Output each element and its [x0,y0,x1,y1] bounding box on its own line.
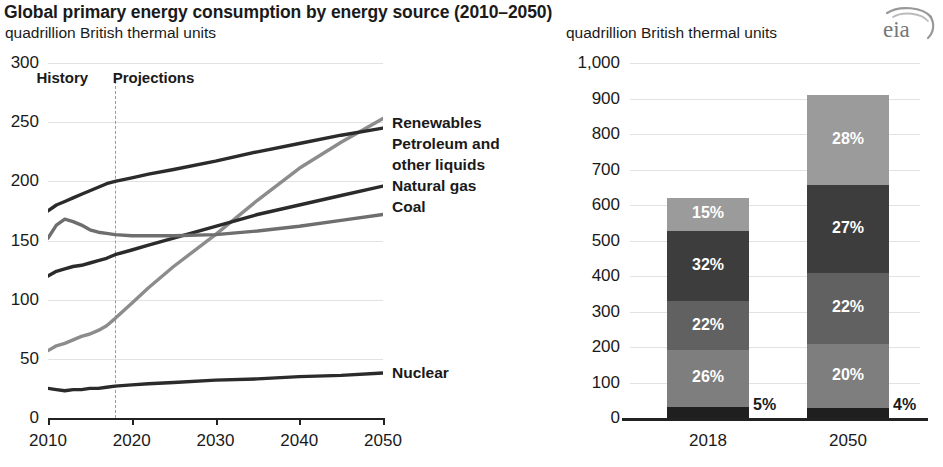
bar-segment-label: 28% [807,130,889,148]
legend-label-0: Renewables [392,113,482,132]
bar-segment-label: 22% [667,316,749,334]
svg-text:eia: eia [883,17,910,42]
bar-outside-label-2050: 4% [893,396,916,414]
right-chart-unit-label: quadrillion British thermal units [566,24,777,42]
bar-segment-label: 15% [667,204,749,222]
right-stacked-bar-chart: 15%32%22%26%5%28%27%22%20%4% 01002003004… [560,55,943,467]
left-x-tick-mark [132,418,134,425]
bar-segment-nuclear[interactable] [667,407,749,418]
eia-logo-icon: eia [879,4,937,44]
left-x-tick: 2020 [92,432,172,449]
left-plot-area [48,63,383,418]
left-x-tick-mark [216,418,218,425]
right-y-tick: 0 [560,409,620,426]
right-gridline [630,63,920,64]
left-y-tick: 0 [0,409,39,426]
bar-segment-label: 26% [667,368,749,386]
left-y-tick: 300 [0,54,39,71]
right-y-tick: 500 [560,232,620,249]
bar-segment-natural-gas[interactable]: 20% [807,344,889,409]
legend-label-4: Coal [392,197,426,216]
left-x-tick: 2030 [176,432,256,449]
right-y-tick: 600 [560,196,620,213]
stacked-bar-2050[interactable]: 28%27%22%20% [807,95,889,418]
left-x-tick-mark [383,418,385,425]
line-series-nuclear [48,373,383,391]
right-y-tick: 1,000 [560,54,620,71]
left-x-tick: 2050 [343,432,423,449]
right-y-tick: 100 [560,374,620,391]
legend-label-2: other liquids [392,155,485,174]
left-x-tick: 2040 [259,432,339,449]
page-title: Global primary energy consumption by ene… [4,2,552,23]
legend-label-nuclear: Nuclear [392,363,449,382]
left-y-tick: 250 [0,113,39,130]
left-y-tick: 200 [0,172,39,189]
left-line-chart: 05010015020025030020102020203020402050Hi… [0,55,560,467]
left-x-tick-mark [299,418,301,425]
right-x-tick-2050: 2050 [798,432,898,449]
right-plot-area: 15%32%22%26%5%28%27%22%20%4% [630,63,920,418]
left-y-tick: 100 [0,291,39,308]
chart-page: Global primary energy consumption by ene… [0,0,943,467]
legend-label-3: Natural gas [392,176,476,195]
bar-segment-renewables[interactable]: 28% [807,95,889,185]
right-y-tick: 900 [560,90,620,107]
right-y-tick: 800 [560,125,620,142]
right-y-tick: 300 [560,303,620,320]
bar-segment-label: 22% [807,298,889,316]
left-x-tick: 2010 [8,432,88,449]
right-x-axis [622,418,928,421]
bar-segment-petroleum-and-other-liquids[interactable]: 27% [807,185,889,272]
right-y-tick: 400 [560,267,620,284]
right-x-tick-2018: 2018 [658,432,758,449]
bar-segment-label: 32% [667,256,749,274]
bar-segment-renewables[interactable]: 15% [667,198,749,231]
right-y-tick: 700 [560,161,620,178]
bar-segment-label: 27% [807,219,889,237]
legend-label-1: Petroleum and [392,134,500,153]
left-series-svg [48,63,383,418]
left-x-tick-mark [48,418,50,425]
bar-segment-coal[interactable]: 22% [807,273,889,344]
stacked-bar-2018[interactable]: 15%32%22%26% [667,198,749,418]
left-y-tick: 50 [0,350,39,367]
bar-segment-natural-gas[interactable]: 26% [667,350,749,407]
era-label-projections: Projections [113,69,233,86]
bar-segment-petroleum-and-other-liquids[interactable]: 32% [667,231,749,301]
right-y-tick: 200 [560,338,620,355]
bar-outside-label-2018: 5% [753,396,776,414]
left-y-tick: 150 [0,232,39,249]
bar-segment-coal[interactable]: 22% [667,301,749,349]
left-chart-unit-label: quadrillion British thermal units [5,24,216,42]
bar-segment-label: 20% [807,366,889,384]
